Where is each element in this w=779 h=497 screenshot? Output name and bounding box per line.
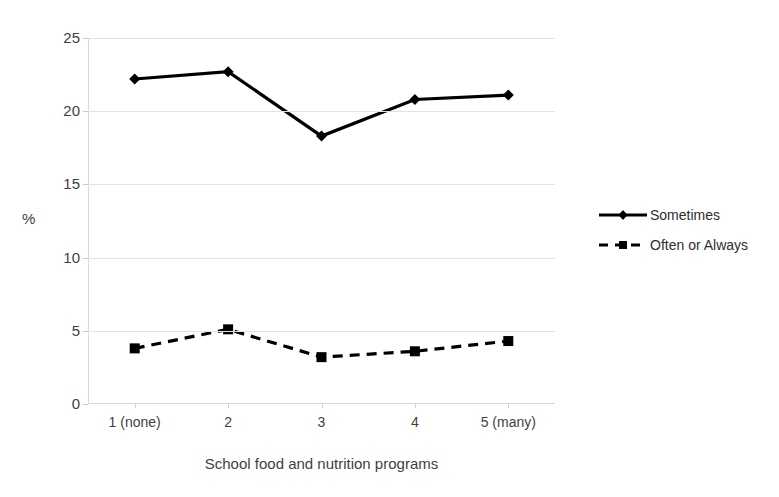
y-axis-tick-label: 5 [40,323,80,338]
y-axis-tick [83,38,88,39]
x-axis-tick [135,404,136,408]
y-axis-tick [83,111,88,112]
x-axis-tick [322,404,323,408]
data-point-marker [223,324,233,334]
data-point-marker [503,90,514,101]
data-point-marker [317,352,327,362]
gridline [88,258,555,259]
data-point-marker [410,346,420,356]
data-point-marker [130,343,140,353]
legend-item-often-or-always: Often or Always [598,230,773,260]
y-axis-tick-label: 15 [40,176,80,191]
x-axis-title: School food and nutrition programs [88,455,555,472]
legend-label-often-or-always: Often or Always [650,237,748,253]
plot-area [88,38,555,404]
data-point-marker [503,336,513,346]
gridline [88,184,555,185]
x-axis-tick [508,404,509,408]
y-axis-tick [83,404,88,405]
gridline [88,111,555,112]
y-axis-tick-label: 0 [40,396,80,411]
x-axis-tick [228,404,229,408]
x-axis-tick [415,404,416,408]
y-axis-tick [83,258,88,259]
data-point-marker [129,73,140,84]
gridline [88,38,555,39]
gridline [88,331,555,332]
x-axis-tick-label: 4 [411,415,419,429]
x-axis-tick-label: 2 [224,415,232,429]
x-axis-tick-label: 1 (none) [109,415,161,429]
chart-legend: Sometimes Often or Always [598,200,773,260]
series-line-sometimes [135,72,509,136]
y-axis-tick [83,331,88,332]
x-axis-tick-label: 5 (many) [481,415,536,429]
legend-swatch-dashed-square-icon [598,237,648,253]
x-axis-tick-labels: 1 (none)2345 (many) [88,415,555,435]
y-axis-title: % [22,210,35,227]
legend-label-sometimes: Sometimes [650,207,720,223]
y-axis-tick-labels: 0510152025 [36,38,80,404]
x-axis-tick-label: 3 [318,415,326,429]
y-axis-tick-label: 10 [40,250,80,265]
y-axis-tick-label: 20 [40,103,80,118]
series-layer [88,38,555,404]
y-axis-tick [83,184,88,185]
legend-item-sometimes: Sometimes [598,200,773,230]
y-axis-line [88,38,89,404]
data-point-marker [409,94,420,105]
y-axis-tick-label: 25 [40,30,80,45]
legend-swatch-solid-diamond-icon [598,207,648,223]
line-chart: 0510152025 % 1 (none)2345 (many) School … [0,0,779,497]
